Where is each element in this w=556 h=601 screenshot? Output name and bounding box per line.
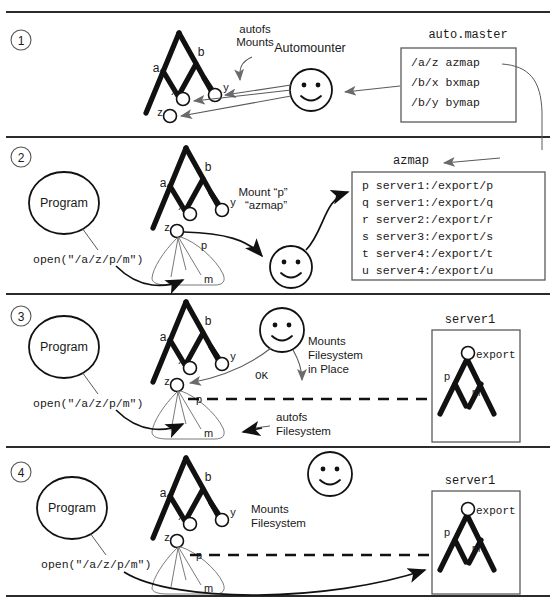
panel-1-map-title: auto.master [428,28,507,42]
panel-2-label-x: x [178,200,184,212]
panel-3-autofs-fs-line2: Filesystem [276,425,331,437]
panel-4-node-y [216,514,229,527]
panel-1-map-line-1: /a/z azmap [411,56,480,69]
panel-4-label-b: b [205,470,212,484]
panel-2-tree: a b x y z [153,148,236,238]
panel-4-server-title: server1 [445,474,495,488]
panel-3-node-x [184,362,197,375]
diagram-root: 1 a b x y z autofs Mounts Automounter [0,0,556,601]
panel-2-label-y: y [230,196,236,208]
panel-3-program-label: Program [40,340,88,354]
panel-1-label-a: a [153,61,160,75]
panel-1-map-line-3: /b/y bymap [411,96,480,109]
panel-3-mounts-line1: Mounts [308,335,346,347]
panel-2-label-a: a [160,176,167,190]
panel-4-open-arrow-to-server [124,570,425,595]
panel-1-map-line-2: /b/x bxmap [411,76,480,89]
panel-4-node-x [184,518,197,531]
panel-3-program-tail [82,372,98,394]
panel-4-label-a: a [160,486,167,500]
panel-4-label-x: x [178,510,184,522]
panel-3-tree: a b x y z [153,302,236,392]
panel-4-tree: a b x y z [153,458,236,548]
panel-4-program-tail [90,533,106,555]
panel-3-mounts-line2: Filesystem [308,349,363,361]
panel-4-server-label-m: m [472,543,480,554]
panel-4-node-z [171,535,184,548]
panel-1-automounter-face [290,69,332,111]
panel-3-autofs-fs-line1: autofs [276,411,308,423]
panel-2-label-z: z [164,221,170,233]
panel-1-label-y: y [223,81,229,93]
panel-3-ok-label: OK [255,370,269,382]
panel-2-label-b: b [205,160,212,174]
panel-4-label-z: z [164,531,170,543]
panel-3-server-node-export [462,347,475,360]
panel-3-number: 3 [18,310,25,324]
panel-3-server-label-m: m [472,387,480,398]
panel-1-label-z: z [157,106,163,118]
panel-2-map-line-1: p server1:/export/p [362,179,493,192]
panel-2-mount-line1: Mount “p” [238,186,287,198]
panel-2-open-call: open("/a/z/p/m") [33,253,143,266]
panel-2-map-title: azmap [393,154,429,168]
panel-2-automounter-face [270,246,312,288]
panel-2-mount-line2: “azmap” [245,199,287,211]
panel-3-mount-arrow [293,350,302,380]
panel-1-autofs-mounts-line1: autofs [239,23,271,35]
panel-1-arrow-map-to-automounter [345,86,400,92]
panel-4-server-label-p: p [444,526,450,538]
panel-2-autofs-label-m: m [204,273,213,285]
panel-4-server-node-export [462,503,475,516]
panel-4-program-label: Program [48,501,96,515]
panel-4-server-label-export: export [476,505,516,517]
panel-3: 3 Program open("/a/z/p/m") a b x y z [11,302,520,442]
panel-3-automounter-face [260,308,304,352]
panel-1-arrow-to-z [181,96,291,116]
panel-4: 4 Program open("/a/z/p/m") a b x y z [11,452,520,595]
panel-1-number: 1 [18,34,25,48]
panel-2-arrow-curl-to-title [444,158,500,163]
panel-3-server-title: server1 [445,313,495,327]
panel-2-node-x [184,208,197,221]
panel-1-node-z [164,110,177,123]
panel-2-autofs-label-p: p [201,239,207,251]
panel-3-label-x: x [178,354,184,366]
panel-2: 2 Program open("/a/z/p/m") a b x y z [11,147,545,288]
panel-2-map-line-5: t server4:/export/t [362,247,493,260]
panel-3-open-call: open("/a/z/p/m") [33,397,143,410]
panel-1-node-x [177,93,190,106]
panel-4-automounter-face [308,452,352,496]
panel-1-automounter-label: Automounter [274,41,346,55]
panel-2-map-line-3: r server2:/export/r [362,213,493,226]
diagram-canvas: 1 a b x y z autofs Mounts Automounter [0,0,556,601]
panel-3-label-a: a [160,330,167,344]
panel-4-open-call: open("/a/z/p/m") [41,558,151,571]
panel-3-server-label-export: export [476,349,516,361]
panel-3-server-box [432,330,520,442]
panel-4-mounts-line2: Filesystem [251,517,306,529]
panel-2-autofs-filesystem: p m [152,237,224,285]
panel-3-server-label-p: p [444,370,450,382]
panel-2-map-line-4: s server3:/export/s [362,230,493,243]
panel-2-number: 2 [18,151,25,165]
panel-1-autofs-mounts-line2: Mounts [236,36,274,48]
panel-1-label-x: x [171,85,177,97]
panel-4-mounts-line1: Mounts [251,503,289,515]
panel-2-map-line-2: q server1:/export/q [362,196,493,209]
panel-2-node-z [171,225,184,238]
panel-3-autofs-label-m: m [204,427,213,439]
panel-1: 1 a b x y z autofs Mounts Automounter [11,23,542,150]
panel-2-map-line-6: u server4:/export/u [362,264,493,277]
panel-3-mounts-line3: in Place [308,363,349,375]
panel-1-label-b: b [198,45,205,59]
panel-3-label-z: z [164,375,170,387]
panel-4-number: 4 [18,466,25,480]
panel-1-autofs-mounts-arrow [240,57,252,80]
panel-3-label-b: b [205,314,212,328]
panel-3-label-y: y [230,350,236,362]
panel-3-node-z [171,379,184,392]
panel-2-program-tail [82,228,98,250]
panel-3-node-y [216,358,229,371]
panel-4-label-y: y [230,506,236,518]
